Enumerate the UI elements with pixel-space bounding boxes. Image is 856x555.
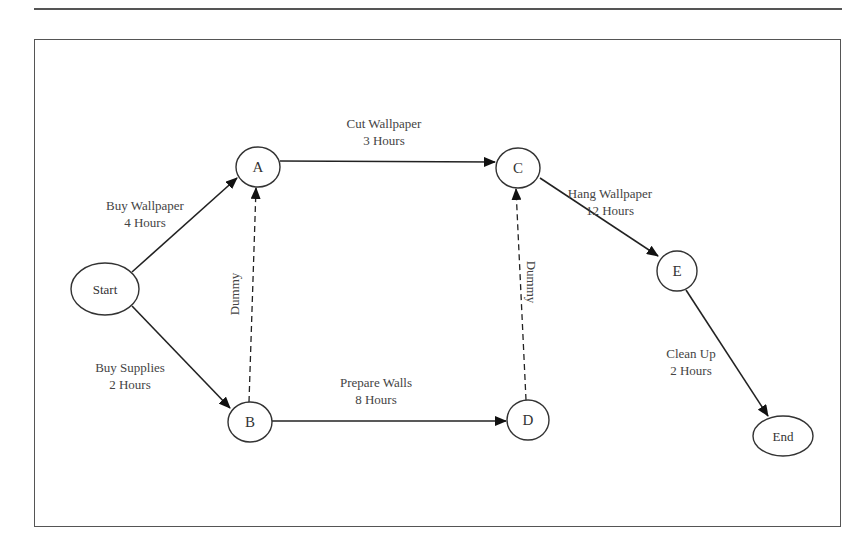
activity-name: Dummy xyxy=(227,272,242,315)
activity-name: Cut Wallpaper xyxy=(347,116,423,131)
network-diagram: Buy Wallpaper4 HoursBuy Supplies2 HoursC… xyxy=(0,0,856,555)
node-label: C xyxy=(513,160,523,176)
edge-dummy-b-a: Dummy xyxy=(227,188,256,402)
activity-duration: 3 Hours xyxy=(363,133,405,148)
edge-clean-up: Clean Up2 Hours xyxy=(666,290,768,416)
edge-cut-wallpaper: Cut Wallpaper3 Hours xyxy=(280,116,495,162)
edge-prepare-walls: Prepare Walls8 Hours xyxy=(272,375,506,421)
node-d: D xyxy=(507,400,549,440)
activity-duration: 2 Hours xyxy=(109,377,151,392)
edge-label: Clean Up2 Hours xyxy=(666,346,715,378)
activity-arrow xyxy=(280,161,495,162)
edge-label: Hang Wallpaper12 Hours xyxy=(568,186,653,218)
node-label: E xyxy=(672,263,681,279)
dummy-arrow xyxy=(249,188,256,402)
activity-name: Dummy xyxy=(524,261,539,304)
edge-buy-supplies: Buy Supplies2 Hours xyxy=(95,306,230,408)
node-label: End xyxy=(773,429,794,444)
node-e: E xyxy=(657,251,697,291)
edge-label: Buy Wallpaper4 Hours xyxy=(106,198,184,230)
activity-name: Buy Wallpaper xyxy=(106,198,184,213)
edge-dummy-d-c: Dummy xyxy=(516,189,539,400)
edge-label: Buy Supplies2 Hours xyxy=(95,360,165,392)
node-label: D xyxy=(523,412,534,428)
edge-label: Dummy xyxy=(227,272,242,315)
activity-name: Hang Wallpaper xyxy=(568,186,653,201)
activity-duration: 8 Hours xyxy=(355,392,397,407)
node-c: C xyxy=(496,148,540,188)
edge-label: Prepare Walls8 Hours xyxy=(340,375,412,407)
node-b: B xyxy=(228,402,272,442)
edge-hang-wallpaper: Hang Wallpaper12 Hours xyxy=(540,178,658,256)
node-label: A xyxy=(253,159,264,175)
activity-duration: 12 Hours xyxy=(586,203,634,218)
activity-name: Buy Supplies xyxy=(95,360,165,375)
node-start: Start xyxy=(71,263,139,315)
activity-duration: 2 Hours xyxy=(670,363,712,378)
nodes-layer: StartABCDEEnd xyxy=(71,147,813,456)
activity-name: Clean Up xyxy=(666,346,715,361)
activity-arrow xyxy=(132,306,230,408)
edge-buy-wallpaper: Buy Wallpaper4 Hours xyxy=(106,178,237,272)
activity-name: Prepare Walls xyxy=(340,375,412,390)
node-label: Start xyxy=(93,282,118,297)
edge-label: Dummy xyxy=(524,261,539,304)
node-label: B xyxy=(245,414,255,430)
edge-label: Cut Wallpaper3 Hours xyxy=(347,116,423,148)
node-end: End xyxy=(753,416,813,456)
node-a: A xyxy=(236,147,280,187)
activity-duration: 4 Hours xyxy=(124,215,166,230)
